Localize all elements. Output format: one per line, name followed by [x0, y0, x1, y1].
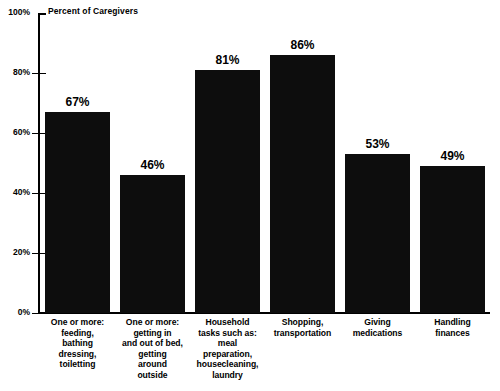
- category-labels: One or more:feeding,bathingdressing,toil…: [40, 317, 490, 391]
- y-axis-tick-label: 20%: [0, 248, 30, 257]
- bar[interactable]: [120, 175, 185, 313]
- bar-slot: 67%: [45, 13, 110, 313]
- bar-value-label: 46%: [106, 159, 199, 172]
- y-axis-tick-label: 80%: [0, 68, 30, 77]
- bar-value-label: 86%: [256, 39, 349, 52]
- bar-value-label: 81%: [181, 54, 274, 67]
- bar[interactable]: [45, 112, 110, 313]
- category-label: Householdtasks such as:mealpreparation,h…: [186, 317, 269, 381]
- category-label: Shopping,transportation: [261, 317, 344, 338]
- plot-area: 67%46%81%86%53%49%: [40, 13, 490, 313]
- bar-value-label: 49%: [406, 150, 499, 163]
- y-axis-tick-label: 40%: [0, 188, 30, 197]
- bar-slot: 81%: [195, 13, 260, 313]
- bar[interactable]: [345, 154, 410, 313]
- bar-value-label: 67%: [31, 96, 124, 109]
- category-label: One or more:feeding,bathingdressing,toil…: [36, 317, 119, 370]
- y-axis-tick: [32, 313, 46, 314]
- y-axis-tick-label: 100%: [0, 8, 30, 17]
- bar-slot: 49%: [420, 13, 485, 313]
- bar[interactable]: [195, 70, 260, 313]
- bar-chart: Percent of Caregivers 0%20%40%60%80%100%…: [0, 0, 500, 391]
- bar-slot: 53%: [345, 13, 410, 313]
- category-label: Handlingfinances: [411, 317, 494, 338]
- category-label: One or more:getting inand out of bed,get…: [111, 317, 194, 381]
- category-label: Givingmedications: [336, 317, 419, 338]
- bar[interactable]: [270, 55, 335, 313]
- y-axis-tick-label: 60%: [0, 128, 30, 137]
- bar-slot: 46%: [120, 13, 185, 313]
- bar-slot: 86%: [270, 13, 335, 313]
- bar[interactable]: [420, 166, 485, 313]
- y-axis-tick-label: 0%: [0, 308, 30, 317]
